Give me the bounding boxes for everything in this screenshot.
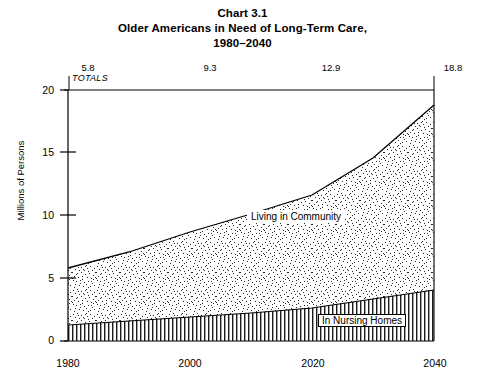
series-label-living-in-community: Living in Community <box>247 210 345 223</box>
plot-area <box>0 0 485 391</box>
chart-figure: Chart 3.1 Older Americans in Need of Lon… <box>0 0 485 391</box>
series-label-in-nursing-homes: In Nursing Homes <box>318 314 406 327</box>
